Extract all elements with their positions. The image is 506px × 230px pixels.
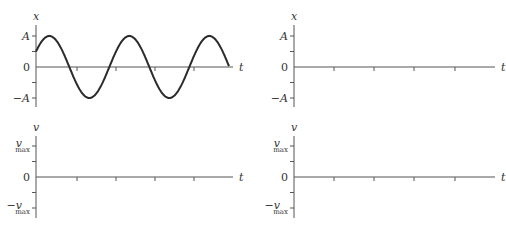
x-axis-label: t <box>501 61 506 74</box>
tick-label-bottom: −A <box>271 92 288 105</box>
position-plot-given: x t A 0 −A <box>13 10 244 107</box>
y-axis-label: v <box>291 121 298 134</box>
tick-label-top: A <box>279 30 288 43</box>
position-plot-blank: x t A 0 −A <box>271 10 506 107</box>
tick-label-zero: 0 <box>23 171 30 184</box>
tick-label-zero: 0 <box>281 61 288 74</box>
tick-label-zero: 0 <box>23 61 30 74</box>
tick-label-bottom-subscript: max <box>273 208 288 216</box>
y-axis-label: x <box>291 10 298 23</box>
tick-label-bottom: −A <box>13 92 30 105</box>
tick-label-zero: 0 <box>281 171 288 184</box>
y-axis-label: v <box>33 121 40 134</box>
x-axis-label: t <box>239 171 244 184</box>
velocity-plot-left: v t v 0 −v maxmax <box>7 121 244 218</box>
tick-label-top-subscript: max <box>273 146 288 154</box>
tick-label-top: A <box>21 30 30 43</box>
tick-label-top-subscript: max <box>15 146 30 154</box>
tick-label-bottom-subscript: max <box>15 208 30 216</box>
x-axis-label: t <box>501 171 506 184</box>
y-axis-label: x <box>33 10 40 23</box>
x-axis-label: t <box>239 61 244 74</box>
velocity-plot-right: v t v 0 −v maxmax <box>265 121 506 218</box>
shm-graphs-figure: x t A 0 −A x t A 0 −A v t v 0 −v maxmax … <box>0 0 506 230</box>
